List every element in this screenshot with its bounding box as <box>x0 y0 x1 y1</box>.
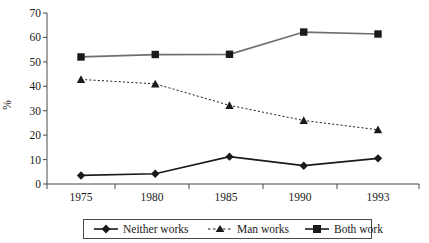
data-point-marker <box>77 75 85 83</box>
y-tick-label-0: 0 <box>35 178 41 190</box>
y-tick-label-50: 50 <box>30 56 42 68</box>
data-point-marker <box>374 154 382 162</box>
x-tick-label-1985: 1985 <box>215 191 238 203</box>
legend-label-man-works: Man works <box>237 223 290 235</box>
x-tick-label-1975: 1975 <box>70 191 93 203</box>
data-point-marker <box>374 30 381 37</box>
y-axis-title: % <box>1 100 13 110</box>
data-point-marker <box>300 28 307 35</box>
data-point-marker <box>77 53 84 60</box>
y-tick-label-20: 20 <box>30 129 42 141</box>
legend-label-neither-works: Neither works <box>123 223 189 235</box>
square-marker-icon <box>313 225 321 233</box>
y-tick-label-70: 70 <box>30 7 42 19</box>
chart-container: % 70 60 50 40 30 20 10 0 1975 1980 1985 … <box>0 0 429 243</box>
y-tick-label-10: 10 <box>30 154 42 166</box>
data-point-marker <box>225 152 233 160</box>
data-point-marker <box>226 51 233 58</box>
series-neither-works <box>77 152 382 179</box>
y-tick-label-40: 40 <box>30 80 42 92</box>
x-tick-label-1980: 1980 <box>141 191 164 203</box>
data-point-marker <box>152 51 159 58</box>
data-point-marker <box>300 161 308 169</box>
series-both-work <box>77 28 381 60</box>
series-layer <box>77 28 382 179</box>
data-point-marker <box>151 170 159 178</box>
chart-legend: Neither works Man works Both work <box>84 220 384 239</box>
data-point-marker <box>77 171 85 179</box>
y-tick-label-60: 60 <box>30 31 42 43</box>
series-man-works <box>77 75 382 133</box>
x-tick-label-1990: 1990 <box>289 191 312 203</box>
y-tick-label-30: 30 <box>30 105 42 117</box>
x-tick-label-1993: 1993 <box>367 191 390 203</box>
line-chart: % 70 60 50 40 30 20 10 0 1975 1980 1985 … <box>0 0 429 243</box>
data-point-marker <box>225 101 233 109</box>
legend-label-both-work: Both work <box>334 223 383 235</box>
